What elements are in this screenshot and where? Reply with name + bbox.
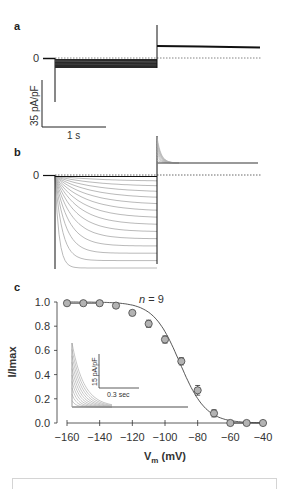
panel-b-current-traces (55, 176, 157, 268)
x-tick-label: −140 (87, 431, 112, 443)
y-tick-label: 0.0 (35, 417, 50, 429)
x-tick-label: −160 (55, 431, 80, 443)
x-axis-title: Vm (mV) (144, 450, 186, 465)
panel-c-label: c (14, 281, 20, 293)
data-point (210, 410, 217, 417)
y-tick-label: 0.6 (35, 344, 50, 356)
y-tick-label: 0.2 (35, 393, 50, 405)
panel-a-scalebar-y-label: 35 pA/pF (29, 85, 40, 126)
y-tick-label: 0.4 (35, 369, 50, 381)
inset-scalebar-x-label: 0.3 sec (107, 391, 130, 398)
panel-a-label: a (14, 20, 21, 32)
data-point (161, 336, 168, 343)
x-tick-label: −100 (153, 431, 178, 443)
data-point (227, 419, 234, 426)
panel-b: b 0 (14, 136, 262, 269)
panel-c: c 0.00.20.40.60.81.0 I/Imax −160−140−120… (6, 281, 272, 465)
inset-scalebar-y-label: 15 pA/pF (91, 358, 99, 386)
data-point (80, 300, 87, 307)
x-tick-label: −40 (254, 431, 273, 443)
data-point (243, 419, 250, 426)
x-axis-ticks: −160−140−120−100−80−60−40 (55, 420, 273, 443)
data-point (145, 320, 152, 327)
y-tick-label: 1.0 (35, 296, 50, 308)
y-axis-ticks: 0.00.20.40.60.81.0 (35, 296, 57, 429)
inset-tail-currents: 15 pA/pF 0.3 sec (72, 343, 188, 407)
data-point (129, 309, 136, 316)
panel-b-zero-label: 0 (33, 169, 39, 181)
x-tick-label: −60 (221, 431, 240, 443)
data-point (96, 300, 103, 307)
y-tick-label: 0.8 (35, 320, 50, 332)
panel-b-label: b (14, 146, 21, 158)
data-point (178, 358, 185, 365)
data-point (194, 387, 201, 394)
panel-a-scalebar-x-label: 1 s (67, 130, 80, 141)
caption-box-border (12, 478, 277, 489)
panel-a-zero-label: 0 (33, 52, 39, 64)
current-trace (55, 176, 157, 261)
data-point (112, 302, 119, 309)
data-point (63, 300, 70, 307)
x-tick-label: −80 (188, 431, 207, 443)
data-point (259, 419, 266, 426)
x-tick-label: −120 (120, 431, 145, 443)
panel-b-tail-currents (157, 137, 179, 163)
panel-a: a 0 35 pA/pF 1 s (14, 20, 262, 141)
panel-a-current-traces (55, 59, 157, 68)
n-annotation: n = 9 (139, 293, 164, 305)
y-axis-title: I/Imax (6, 346, 18, 378)
current-trace (55, 176, 157, 253)
panel-a-tail-current (157, 46, 260, 48)
